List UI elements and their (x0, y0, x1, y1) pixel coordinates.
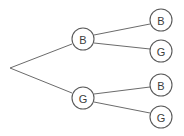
tree-node-n3[interactable]: B (150, 9, 172, 31)
tree-edge-e5 (94, 87, 150, 94)
node-label-n4: G (157, 46, 166, 58)
tree-edge-e2 (10, 68, 72, 93)
tree-edge-e1 (10, 44, 72, 68)
tree-node-n5[interactable]: B (150, 74, 172, 96)
tree-node-n1[interactable]: B (72, 28, 94, 50)
node-label-n1: B (79, 34, 86, 46)
nodes-group: BGBGBG (72, 9, 172, 128)
node-label-n3: B (157, 15, 164, 27)
node-label-n6: G (157, 112, 166, 124)
tree-node-n6[interactable]: G (150, 106, 172, 128)
tree-diagram-canvas: BGBGBG (0, 0, 184, 136)
node-label-n2: G (79, 93, 88, 105)
tree-node-n4[interactable]: G (150, 40, 172, 62)
node-label-n5: B (157, 80, 164, 92)
tree-edge-e6 (94, 102, 150, 113)
tree-diagram: BGBGBG (0, 0, 184, 136)
tree-edge-e3 (94, 24, 150, 35)
tree-edge-e4 (94, 43, 150, 49)
tree-node-n2[interactable]: G (72, 87, 94, 109)
